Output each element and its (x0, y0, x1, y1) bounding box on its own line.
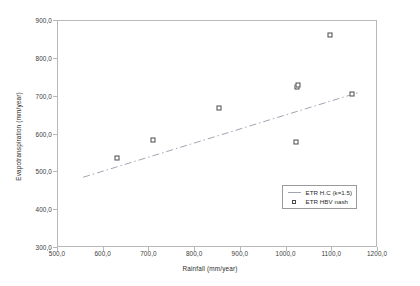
data-point-marker (150, 138, 155, 143)
plot-area: ETR H.C (k=1.5) ETR HBV nash (57, 20, 377, 247)
legend-label-etr-hc: ETR H.C (k=1.5) (303, 189, 353, 196)
x-axis-tick-mark (377, 247, 378, 251)
x-axis-tick-labels: 500,0600,0700,0800,0900,01000,01100,0120… (0, 250, 420, 262)
y-axis-tick-label: 400,0 (36, 206, 53, 213)
y-axis-tick-labels: 300,0400,0500,0600,0700,0800,0900,0 (0, 0, 52, 286)
y-axis-tick-mark (53, 209, 57, 210)
data-point-marker (293, 140, 298, 145)
x-axis-tick-label: 600,0 (94, 250, 111, 257)
y-axis-tick-label: 900,0 (36, 17, 53, 24)
y-axis-tick-mark (53, 20, 57, 21)
x-axis-tick-label: 1200,0 (367, 250, 387, 257)
x-axis-tick-label: 500,0 (49, 250, 66, 257)
x-axis-tick-label: 700,0 (140, 250, 157, 257)
y-axis-tick-label: 700,0 (36, 92, 53, 99)
trend-line-etr-hc (58, 21, 378, 248)
x-axis-tick-mark (331, 247, 332, 251)
legend-item-etr-hc: ETR H.C (k=1.5) (286, 188, 353, 197)
y-axis-title: Evapotranspiration (mm/year) (15, 57, 22, 217)
y-axis-tick-label: 600,0 (36, 130, 53, 137)
y-axis-tick-mark (53, 134, 57, 135)
data-point-marker (328, 32, 333, 37)
x-axis-tick-mark (103, 247, 104, 251)
y-axis-tick-mark (53, 96, 57, 97)
y-axis-tick-label: 800,0 (36, 54, 53, 61)
x-axis-tick-label: 900,0 (232, 250, 249, 257)
y-axis-tick-mark (53, 171, 57, 172)
x-axis-tick-mark (240, 247, 241, 251)
data-point-marker (349, 92, 354, 97)
data-point-marker (114, 156, 119, 161)
legend-label-etr-hbv-nash: ETR HBV nash (303, 198, 349, 205)
data-point-marker (217, 106, 222, 111)
x-axis-tick-mark (148, 247, 149, 251)
y-axis-tick-label: 500,0 (36, 168, 53, 175)
y-axis-tick-mark (53, 58, 57, 59)
legend-square-marker-icon (286, 200, 303, 204)
chart-legend: ETR H.C (k=1.5) ETR HBV nash (282, 185, 358, 209)
legend-item-etr-hbv-nash: ETR HBV nash (286, 197, 353, 206)
x-axis-tick-mark (194, 247, 195, 251)
x-axis-tick-label: 1000,0 (275, 250, 295, 257)
x-axis-tick-label: 800,0 (186, 250, 203, 257)
x-axis-tick-mark (57, 247, 58, 251)
data-point-marker (295, 83, 300, 88)
legend-line-icon (286, 192, 303, 193)
x-axis-tick-label: 1100,0 (321, 250, 341, 257)
chart-container: 300,0400,0500,0600,0700,0800,0900,0 500,… (0, 0, 420, 286)
x-axis-title: Rainfall (mm/year) (0, 265, 420, 272)
x-axis-tick-mark (286, 247, 287, 251)
